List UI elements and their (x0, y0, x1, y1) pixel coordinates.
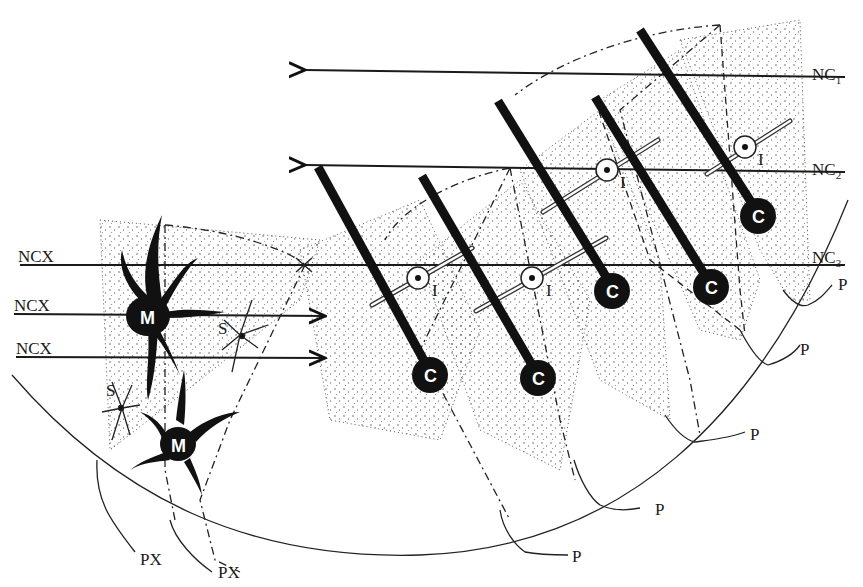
label-m-1: M (140, 308, 155, 328)
label-ncx-2: NCX (14, 296, 50, 315)
label-p-4: P (800, 340, 809, 359)
label-s-1: S (218, 319, 227, 338)
label-nc2: NC2 (812, 160, 841, 181)
label-s-2: S (106, 381, 115, 400)
label-px-1: PX (140, 550, 162, 569)
label-p-3: P (750, 425, 759, 444)
label-px-2: PX (218, 563, 240, 582)
label-p-5: P (838, 275, 847, 294)
label-c-2: C (532, 369, 545, 389)
label-i-4: I (758, 150, 764, 169)
label-m-2: M (171, 436, 186, 456)
label-ncx-1: NCX (18, 247, 54, 266)
label-c-5: C (752, 207, 765, 227)
label-c-1: C (424, 366, 437, 386)
label-p-1: P (572, 547, 581, 566)
label-i-2: I (546, 281, 552, 300)
neural-circuit-diagram: NC1 NC2 NC3 NCX NCX NCX PX PX P P P P P … (0, 0, 863, 587)
label-nc1: NC1 (812, 65, 841, 86)
label-i-3: I (620, 173, 626, 192)
label-p-2: P (655, 500, 664, 519)
label-c-3: C (606, 282, 619, 302)
label-ncx-3: NCX (16, 339, 52, 358)
stippled-fields (100, 20, 810, 470)
label-nc3: NC3 (812, 248, 842, 269)
label-i-1: I (432, 281, 438, 300)
label-c-4: C (705, 278, 718, 298)
